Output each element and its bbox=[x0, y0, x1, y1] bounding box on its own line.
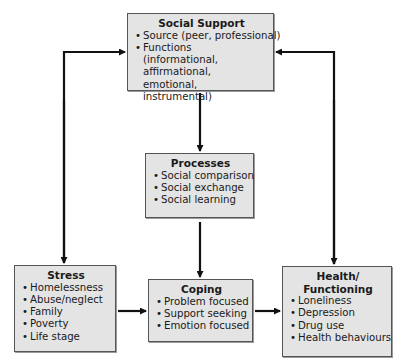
coping-list: Problem focused Support seeking Emotion … bbox=[156, 296, 247, 333]
processes-title: Processes bbox=[153, 157, 248, 170]
list-item: Abuse/neglect bbox=[22, 294, 110, 306]
list-item: Loneliness bbox=[290, 295, 386, 307]
list-item: Life stage bbox=[22, 331, 110, 343]
list-item: Problem focused bbox=[156, 296, 247, 308]
list-item: Social comparison bbox=[153, 170, 248, 182]
figure-caption-clipped bbox=[0, 357, 160, 363]
list-item: Social learning bbox=[153, 194, 248, 206]
stress-list: Homelessness Abuse/neglect Family Povert… bbox=[22, 282, 110, 343]
social-support-list: Source (peer, professional) Functions (i… bbox=[135, 30, 268, 104]
health-list: Loneliness Depression Drug use Health be… bbox=[290, 295, 386, 344]
list-item: Social exchange bbox=[153, 182, 248, 194]
health-title-line1: Health/ bbox=[290, 270, 386, 283]
social-support-title: Social Support bbox=[135, 17, 268, 30]
processes-list: Social comparison Social exchange Social… bbox=[153, 170, 248, 207]
coping-title: Coping bbox=[156, 283, 247, 296]
list-item: Emotion focused bbox=[156, 320, 247, 332]
coping-box: Coping Problem focused Support seeking E… bbox=[148, 279, 253, 342]
list-item: Drug use bbox=[290, 320, 386, 332]
health-title-line2: Functioning bbox=[290, 283, 386, 296]
stress-box: Stress Homelessness Abuse/neglect Family… bbox=[14, 265, 116, 352]
arrow-health-social-support bbox=[276, 52, 334, 264]
list-item: Poverty bbox=[22, 318, 110, 330]
list-item: Health behaviours bbox=[290, 332, 386, 344]
list-item: Support seeking bbox=[156, 308, 247, 320]
social-support-box: Social Support Source (peer, professiona… bbox=[127, 13, 274, 91]
list-item: Functions (informational, affirmational,… bbox=[135, 42, 268, 103]
list-item: Depression bbox=[290, 307, 386, 319]
stress-title: Stress bbox=[22, 269, 110, 282]
arrow-stress-social-support bbox=[64, 52, 125, 263]
health-functioning-box: Health/ Functioning Loneliness Depressio… bbox=[282, 266, 392, 357]
processes-box: Processes Social comparison Social excha… bbox=[145, 153, 254, 218]
list-item: Homelessness bbox=[22, 282, 110, 294]
list-item: Family bbox=[22, 306, 110, 318]
list-item: Source (peer, professional) bbox=[135, 30, 268, 42]
